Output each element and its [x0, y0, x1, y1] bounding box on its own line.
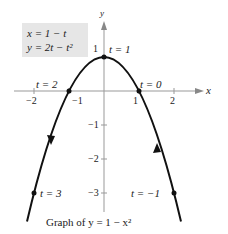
x-tick-m2: −2 — [26, 95, 37, 106]
label-t3: t = 3 — [40, 187, 61, 199]
x-axis-label: x — [206, 84, 211, 96]
point-t2 — [67, 89, 72, 94]
y-axis-arrow-icon — [101, 21, 107, 30]
figure-caption: Graph of y = 1 − x² — [46, 216, 131, 228]
y-tick-1: 1 — [93, 43, 98, 54]
y-tick-m3: −3 — [88, 187, 99, 198]
x-tick-1: 1 — [133, 95, 138, 106]
y-tick-m2: −2 — [88, 153, 99, 164]
y-tick-m1: −1 — [88, 119, 99, 130]
point-t3 — [32, 191, 37, 196]
x-tick-2: 2 — [170, 95, 175, 106]
label-t1: t = 1 — [109, 43, 130, 55]
x-axis-arrow-icon — [195, 88, 204, 94]
equation-x: x = 1 − t — [27, 26, 83, 40]
point-tm1 — [172, 191, 177, 196]
point-t1 — [102, 55, 107, 60]
x-tick-m1: −1 — [72, 95, 83, 106]
label-t2: t = 2 — [36, 78, 57, 90]
y-axis-label: y — [100, 8, 104, 18]
parametric-equations-box: x = 1 − t y = 2t − t² — [22, 23, 88, 57]
label-tm1: t = −1 — [131, 187, 160, 199]
equation-y: y = 2t − t² — [27, 40, 83, 54]
label-t0: t = 0 — [140, 78, 161, 90]
